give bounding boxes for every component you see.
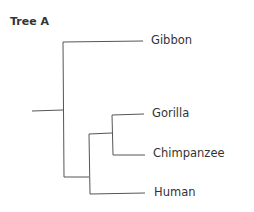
root-branch	[32, 110, 63, 111]
branch-gorilla	[112, 114, 144, 115]
leaf-label-human: Human	[154, 185, 195, 199]
branch-gibbon	[63, 41, 143, 42]
leaf-label-chimpanzee: Chimpanzee	[153, 146, 225, 160]
root-node-vertical	[63, 42, 64, 177]
leaf-label-gibbon: Gibbon	[151, 33, 192, 47]
great-apes-node-vertical	[89, 134, 90, 194]
phylogenetic-tree	[0, 0, 254, 212]
branch-human	[90, 193, 145, 194]
branch-to-african-apes	[89, 133, 112, 134]
african-apes-node-vertical	[112, 115, 113, 155]
leaf-label-gorilla: Gorilla	[152, 106, 189, 120]
